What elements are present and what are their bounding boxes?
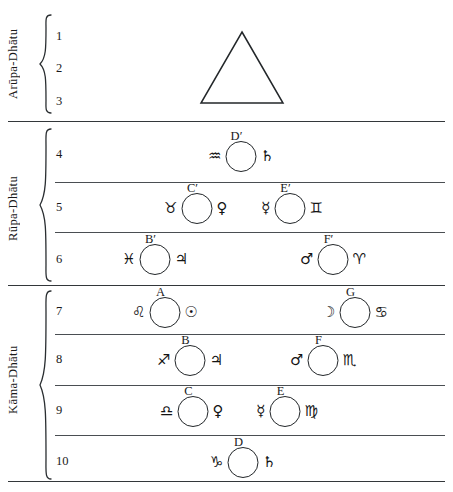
- cancer-sign-icon: ♋: [371, 305, 401, 320]
- rule-bottom-border: [8, 481, 445, 482]
- row-number-7: 7: [56, 305, 76, 318]
- unit-label-c: C: [184, 385, 192, 398]
- saturn-symbol-icon: ♄: [259, 455, 289, 470]
- rule-row5-row6-divider: [55, 232, 445, 233]
- unit-d-prime: ♒ ♄ D′: [196, 139, 287, 173]
- aries-sign-icon: ♈: [349, 252, 379, 267]
- mars-symbol-icon: ♂: [288, 252, 318, 267]
- circle-b-prime: [140, 244, 171, 275]
- unit-label-b-prime: B′: [145, 233, 156, 246]
- circle-f-prime: [318, 244, 349, 275]
- row-number-5: 5: [56, 201, 76, 214]
- unit-b-prime: ♓ ♃ B′: [110, 242, 201, 276]
- taurus-sign-icon: ♉: [152, 201, 182, 216]
- rule-row8-row9-divider: [55, 385, 445, 386]
- row-number-2: 2: [56, 62, 76, 75]
- moon-symbol-icon: ☽: [310, 305, 340, 320]
- rule-row9-row10-divider: [55, 435, 445, 436]
- capricorn-sign-icon: ♑: [198, 455, 228, 470]
- unit-d: ♑ ♄ D: [198, 445, 289, 479]
- pisces-sign-icon: ♓: [110, 252, 140, 267]
- unit-label-a: A: [156, 286, 165, 299]
- group-label-rupa-dhatu: Rūpa-Dhātu: [6, 137, 24, 279]
- libra-sign-icon: ♎: [148, 404, 178, 419]
- saturn-symbol-icon: ♄: [257, 149, 287, 164]
- unit-label-g: G: [346, 286, 355, 299]
- unit-label-e: E: [277, 385, 285, 398]
- jupiter-symbol-icon: ♃: [171, 252, 201, 267]
- row-number-9: 9: [56, 404, 76, 417]
- circle-c-prime: [182, 193, 213, 224]
- circle-d-prime: [226, 141, 257, 172]
- rule-row4-row5-divider: [55, 182, 445, 183]
- circle-g: [340, 297, 371, 328]
- row-number-6: 6: [56, 253, 76, 266]
- unit-b: ♐ ♃ B: [145, 343, 236, 377]
- row-number-1: 1: [56, 30, 76, 43]
- dhatu-diagram: Arūpa-Dhātu 1 2 3 Rūpa-Dhātu 4 ♒ ♄ D′ 5: [0, 0, 453, 492]
- virgo-sign-icon: ♍: [301, 404, 331, 419]
- rule-rupa-kama-divider: [8, 285, 445, 286]
- leo-sign-icon: ♌: [120, 305, 150, 320]
- unit-label-d-prime: D′: [231, 130, 243, 143]
- triangle-outline: [198, 29, 286, 107]
- group-label-arupa-dhatu: Arūpa-Dhātu: [6, 12, 24, 116]
- mercury-symbol-icon: ☿: [245, 201, 275, 216]
- unit-e-prime: ☿ ♊ E′: [245, 191, 336, 225]
- row-number-10: 10: [56, 455, 76, 468]
- mercury-symbol-icon: ☿: [240, 404, 270, 419]
- rule-arupa-rupa-divider: [8, 121, 445, 122]
- unit-e: ☿ ♍ E: [240, 394, 331, 428]
- rule-row7-row8-divider: [55, 334, 445, 335]
- unit-label-f-prime: F′: [324, 233, 334, 246]
- brace-arupa-dhatu: [38, 14, 54, 114]
- row-number-3: 3: [56, 95, 76, 108]
- unit-a: ♌ ☉ A: [120, 295, 211, 329]
- unit-f: ♂ ♏ F: [278, 343, 369, 377]
- circle-b: [175, 345, 206, 376]
- unit-label-c-prime: C′: [187, 182, 198, 195]
- unit-c: ♎ ♀ C: [148, 394, 239, 428]
- row-number-8: 8: [56, 353, 76, 366]
- circle-e-prime: [275, 193, 306, 224]
- venus-symbol-icon: ♀: [209, 404, 239, 419]
- circle-e: [270, 396, 301, 427]
- unit-g: ☽ ♋ G: [310, 295, 401, 329]
- jupiter-symbol-icon: ♃: [206, 353, 236, 368]
- unit-label-f: F: [315, 334, 322, 347]
- unit-label-e-prime: E′: [280, 182, 290, 195]
- circle-c: [178, 396, 209, 427]
- row-number-4: 4: [56, 148, 76, 161]
- scorpio-sign-icon: ♏: [339, 353, 369, 368]
- mars-symbol-icon: ♂: [278, 353, 308, 368]
- brace-rupa-dhatu: [38, 128, 54, 282]
- brace-kama-dhatu: [38, 290, 54, 480]
- circle-a: [150, 297, 181, 328]
- aquarius-sign-icon: ♒: [196, 149, 226, 164]
- unit-f-prime: ♂ ♈ F′: [288, 242, 379, 276]
- group-label-kama-dhatu: Kāma-Dhātu: [6, 305, 24, 455]
- circle-d: [228, 447, 259, 478]
- unit-c-prime: ♉ ♀ C′: [152, 191, 243, 225]
- circle-f: [308, 345, 339, 376]
- sagittarius-sign-icon: ♐: [145, 353, 175, 368]
- sun-symbol-icon: ☉: [181, 305, 211, 320]
- venus-symbol-icon: ♀: [213, 201, 243, 216]
- unit-label-d: D: [234, 436, 243, 449]
- unit-label-b: B: [181, 334, 189, 347]
- gemini-sign-icon: ♊: [306, 201, 336, 216]
